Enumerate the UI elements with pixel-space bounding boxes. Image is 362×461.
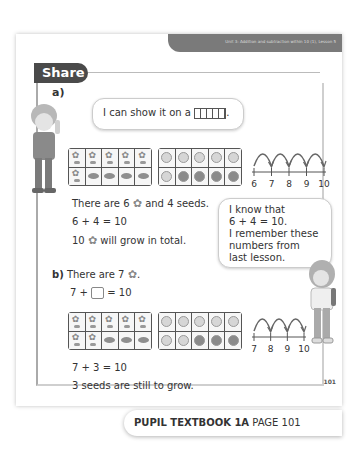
part-b-label: b) — [52, 269, 64, 280]
ten-frame-cell — [102, 149, 118, 167]
answer-blank-box — [91, 287, 104, 299]
ten-frame-cell — [86, 313, 102, 331]
ten-frame-cell — [69, 332, 85, 350]
dark-counter-icon — [211, 335, 222, 346]
light-counter-icon — [178, 152, 189, 163]
boy-character-icon — [22, 100, 68, 196]
seed-icon — [104, 173, 115, 179]
ten-frame-cell — [135, 149, 151, 167]
light-counter-icon — [228, 152, 239, 163]
bubble-a-text: I can show it on a — [103, 107, 191, 118]
number-line-b: 78910 — [248, 305, 312, 357]
light-counter-icon — [178, 316, 189, 327]
ten-frame-cell — [135, 168, 151, 186]
ten-frame-cell — [176, 149, 192, 167]
flower-icon — [88, 152, 98, 164]
ten-frame-flowers-b — [68, 312, 152, 350]
ten-frame-cell — [159, 168, 175, 186]
seed-icon — [104, 337, 115, 343]
part-b-answer-text: 3 seeds are still to grow. — [72, 380, 194, 391]
ten-frame-cell — [192, 332, 208, 350]
light-counter-icon — [211, 316, 222, 327]
light-counter-icon — [161, 316, 172, 327]
dark-counter-icon — [228, 171, 239, 182]
part-b-answer-equation: 7 + 3 = 10 — [72, 362, 127, 373]
ten-frame-flowers-a — [68, 148, 152, 186]
svg-text:9: 9 — [284, 344, 290, 354]
light-counter-icon — [161, 335, 172, 346]
footer-book: PUPIL TEXTBOOK 1A — [134, 417, 249, 428]
light-counter-icon — [228, 316, 239, 327]
speech-bubble-a: I can show it on a . — [92, 98, 244, 130]
ten-frame-cell — [225, 313, 241, 331]
ten-frame-cell — [102, 332, 118, 350]
dark-counter-icon — [194, 171, 205, 182]
flower-icon — [72, 334, 82, 346]
ten-frame-cell — [69, 313, 85, 331]
light-counter-icon — [178, 335, 189, 346]
ten-frame-icon — [194, 108, 226, 119]
ten-frame-counters-a — [158, 148, 242, 186]
page-number: 101 — [323, 378, 336, 385]
seed-icon — [138, 173, 149, 179]
ten-frame-cell — [119, 332, 135, 350]
flower-icon — [105, 316, 115, 328]
light-counter-icon — [194, 152, 205, 163]
ten-frame-cell — [159, 313, 175, 331]
seed-icon — [138, 337, 149, 343]
dark-counter-icon — [178, 171, 189, 182]
ten-frame-cell — [192, 313, 208, 331]
flower-icon — [122, 316, 132, 328]
flower-icon — [138, 316, 148, 328]
flower-icon: ✿ — [128, 268, 137, 281]
ten-frame-cell — [119, 149, 135, 167]
flower-icon — [72, 170, 82, 182]
ten-frame-cell — [86, 149, 102, 167]
light-counter-icon — [194, 316, 205, 327]
flower-icon — [138, 152, 148, 164]
seed-icon — [121, 173, 132, 179]
ten-frame-cell — [176, 313, 192, 331]
svg-text:8: 8 — [268, 344, 274, 354]
ten-frame-cell — [135, 313, 151, 331]
ten-frame-cell — [225, 149, 241, 167]
footer-tag: PUPIL TEXTBOOK 1A PAGE 101 — [124, 410, 342, 436]
light-counter-icon — [211, 152, 222, 163]
seed-icon — [121, 337, 132, 343]
ten-frame-cell — [119, 313, 135, 331]
flower-icon — [72, 152, 82, 164]
dark-counter-icon — [211, 171, 222, 182]
ten-frame-cell — [176, 332, 192, 350]
ten-frame-cell — [135, 332, 151, 350]
ten-frame-cell — [209, 313, 225, 331]
flower-icon — [105, 152, 115, 164]
unit-title: Unit 3: Addition and subtraction within … — [225, 39, 336, 44]
ten-frame-cell — [159, 332, 175, 350]
ten-frame-cell — [225, 168, 241, 186]
dark-counter-icon — [194, 335, 205, 346]
ten-frame-cell — [69, 149, 85, 167]
divider — [88, 72, 320, 73]
light-counter-icon — [161, 152, 172, 163]
number-line-a: 678910 — [246, 140, 332, 192]
flower-icon: ✿ — [133, 197, 142, 210]
flower-icon — [72, 316, 82, 328]
part-a-label: a) — [52, 86, 64, 99]
part-b-equation: 7 + = 10 — [70, 287, 132, 299]
ten-frame-cell — [119, 168, 135, 186]
ten-frame-cell — [209, 168, 225, 186]
flower-icon — [122, 152, 132, 164]
ten-frame-cell — [209, 332, 225, 350]
dark-counter-icon — [228, 335, 239, 346]
ten-frame-cell — [86, 168, 102, 186]
svg-text:10: 10 — [298, 344, 310, 354]
light-counter-icon — [161, 171, 172, 182]
part-a-equation: 6 + 4 = 10 — [72, 216, 127, 227]
svg-text:10: 10 — [318, 179, 330, 189]
ten-frame-cell — [192, 168, 208, 186]
part-b-line1: b) There are 7 ✿. — [52, 268, 140, 281]
ten-frame-cell — [225, 332, 241, 350]
footer-page: PAGE 101 — [252, 417, 300, 428]
ten-frame-cell — [86, 332, 102, 350]
ten-frame-cell — [102, 313, 118, 331]
